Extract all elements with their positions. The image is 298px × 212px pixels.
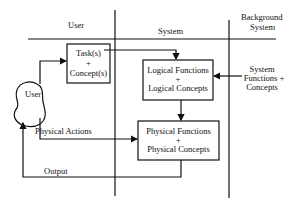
header-background-line1: Background xyxy=(241,12,283,22)
task-box-line2: + xyxy=(86,58,91,68)
diagram-canvas: User System Background System Task(s) + … xyxy=(0,0,298,212)
edge-label-physical-actions: Physical Actions xyxy=(35,126,92,136)
task-box-line3: Concept(s) xyxy=(70,68,107,78)
header-background-line2: System xyxy=(250,22,275,32)
background-node-line3: Concepts xyxy=(246,82,278,92)
user-cloud-label: User xyxy=(25,89,41,99)
edge-user-to-task xyxy=(40,61,66,84)
logical-box-line3: Logical Concepts xyxy=(148,83,208,93)
header-system: System xyxy=(158,26,183,36)
task-box-line1: Task(s) xyxy=(76,48,101,58)
physical-box-line3: Physical Concepts xyxy=(147,144,210,154)
edge-label-output: Output xyxy=(44,166,68,176)
header-user: User xyxy=(68,20,84,30)
